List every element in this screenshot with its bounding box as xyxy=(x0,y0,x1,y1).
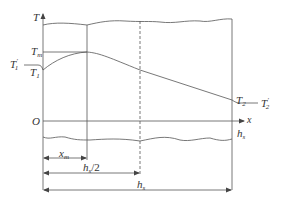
origin-label: O xyxy=(32,116,40,127)
boundary-hs-label: hs xyxy=(237,128,245,141)
half-thickness-label: hs/2 xyxy=(83,162,100,175)
t2-prime-label: T′2 xyxy=(261,97,269,111)
t1-label: T1 xyxy=(30,67,40,80)
thickness-label: hs xyxy=(137,179,145,192)
t-axis-label: T xyxy=(33,12,39,23)
bottom-wavy-boundary xyxy=(43,137,232,141)
temperature-curve xyxy=(43,52,232,100)
t2-label: T2 xyxy=(236,95,246,108)
tmax-label: Tm xyxy=(31,46,42,59)
t1-prime-label: T′1 xyxy=(10,58,18,72)
xm-dimension-label: xm xyxy=(59,148,69,161)
x-axis-label: x xyxy=(247,115,251,125)
top-wavy-boundary xyxy=(43,19,232,25)
